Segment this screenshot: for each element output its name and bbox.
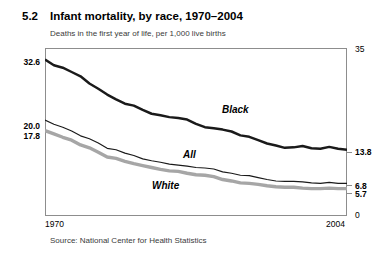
series-label-black: Black xyxy=(222,104,249,115)
right-axis-label-black: 13.8 xyxy=(355,147,372,157)
left-axis-label-all: 20.0 xyxy=(8,121,40,131)
right-axis-label-max: 35 xyxy=(355,44,364,54)
figure-subtitle: Deaths in the first year of life, per 1,… xyxy=(50,29,226,38)
left-axis-label-black: 32.6 xyxy=(8,57,40,67)
series-label-all: All xyxy=(183,149,196,160)
page-title: Infant mortality, by race, 1970–2004 xyxy=(50,10,243,22)
tick-all xyxy=(347,185,352,186)
series-label-white: White xyxy=(152,180,179,191)
x-axis-label-start: 1970 xyxy=(45,219,64,229)
series-line-black xyxy=(45,60,347,150)
right-axis-label-white: 5.7 xyxy=(355,189,367,199)
left-axis-label-white: 17.8 xyxy=(8,131,40,141)
right-axis-label-min: 0 xyxy=(355,210,360,220)
figure-number: 5.2 xyxy=(22,10,38,22)
source-note: Source: National Center for Health Stati… xyxy=(50,236,207,245)
figure-panel: 5.2 Infant mortality, by race, 1970–2004… xyxy=(0,0,391,254)
line-chart-canvas xyxy=(45,48,347,216)
x-axis-label-end: 2004 xyxy=(326,219,345,229)
tick-white xyxy=(347,193,352,194)
tick-black xyxy=(347,152,352,153)
